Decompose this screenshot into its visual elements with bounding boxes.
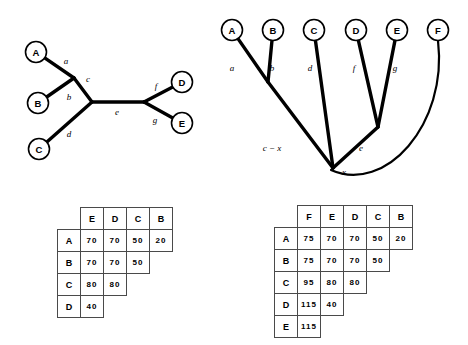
matrix-row-header-D: D <box>275 294 298 316</box>
matrix-col-header-B: B <box>150 208 173 230</box>
edge-label-x: x <box>341 167 346 177</box>
edge-label-b: b <box>270 63 275 73</box>
edge-label-d: d <box>67 129 72 139</box>
matrix-cell-B-E: 70 <box>81 252 104 274</box>
matrix-row: C8080 <box>58 274 173 296</box>
matrix-cell-C-D: 80 <box>104 274 127 296</box>
edge-label-c-x: c − x <box>263 143 282 153</box>
matrix-col-header-B: B <box>390 206 413 228</box>
matrix-row: D11540 <box>275 294 413 316</box>
branch-b <box>268 40 272 82</box>
matrix-empty-cell <box>390 272 413 294</box>
matrix-cell-A-C: 50 <box>127 230 150 252</box>
matrix-cell-D-E: 40 <box>321 294 344 316</box>
edge-label-e: e <box>115 107 119 117</box>
matrix-empty-cell <box>150 252 173 274</box>
matrix-cell-B-E: 70 <box>321 250 344 272</box>
edge-label-g: g <box>153 115 158 125</box>
matrix-cell-D-F: 115 <box>298 294 321 316</box>
matrix-col-header-F: F <box>298 206 321 228</box>
edge-label-f: f <box>155 81 159 91</box>
matrix-row-header-E: E <box>275 316 298 338</box>
branch-f <box>144 87 173 102</box>
matrix-header-row: EDCB <box>58 208 173 230</box>
taxon-label-D: D <box>353 25 360 36</box>
taxon-label-F: F <box>435 25 441 36</box>
rooted-edge-labels: abdfgc − xex <box>230 63 398 177</box>
matrix-row: C958080 <box>275 272 413 294</box>
matrix-col-header-E: E <box>81 208 104 230</box>
matrix-empty-cell <box>104 296 127 318</box>
edge-label-d: d <box>308 63 313 73</box>
unrooted-tree-group: ABCDE abcdefg <box>26 42 193 160</box>
edge-label-g: g <box>393 63 398 73</box>
matrix-cell-A-C: 50 <box>367 228 390 250</box>
matrix-cell-C-F: 95 <box>298 272 321 294</box>
matrix-cell-B-F: 75 <box>298 250 321 272</box>
matrix-row-header-B: B <box>58 252 81 274</box>
matrix-empty-cell <box>367 316 390 338</box>
matrix-empty-cell <box>150 296 173 318</box>
matrix-empty-cell <box>390 316 413 338</box>
matrix-cell-A-B: 20 <box>390 228 413 250</box>
branch-f <box>358 40 378 127</box>
matrix-col-header-D: D <box>344 206 367 228</box>
matrix-row-header-D: D <box>58 296 81 318</box>
rooted-branches <box>238 39 439 175</box>
matrix-row: D40 <box>58 296 173 318</box>
edge-label-b: b <box>67 92 72 102</box>
matrix-header-row: FEDCB <box>275 206 413 228</box>
unrooted-edge-labels: abcdefg <box>64 56 159 139</box>
taxon-label-A: A <box>33 47 40 58</box>
branch-e <box>333 127 378 168</box>
matrix-cell-C-E: 80 <box>81 274 104 296</box>
edge-label-f: f <box>353 63 357 73</box>
unrooted-branches <box>45 58 173 142</box>
matrix-empty-cell <box>367 272 390 294</box>
taxon-label-B: B <box>35 98 42 109</box>
matrix-row: A70705020 <box>58 230 173 252</box>
matrix-empty-cell <box>390 250 413 272</box>
taxon-label-C: C <box>36 144 43 155</box>
matrix-cell-A-F: 75 <box>298 228 321 250</box>
branch-g <box>378 40 395 127</box>
matrix-row: A7570705020 <box>275 228 413 250</box>
matrix-row-header-C: C <box>58 274 81 296</box>
edge-label-c: c <box>86 74 90 84</box>
taxon-label-D: D <box>179 77 186 88</box>
matrix-corner-cell <box>275 206 298 228</box>
matrix-row-header-A: A <box>275 228 298 250</box>
matrix-cell-B-C: 50 <box>367 250 390 272</box>
matrix-cell-C-D: 80 <box>344 272 367 294</box>
taxon-label-E: E <box>394 25 400 36</box>
matrix-row: B75707050 <box>275 250 413 272</box>
matrix-empty-cell <box>150 274 173 296</box>
matrix-corner-cell <box>58 208 81 230</box>
matrix-empty-cell <box>321 316 344 338</box>
distance-matrix-right: FEDCBA7570705020B75707050C958080D11540E1… <box>274 205 413 338</box>
matrix-cell-E-F: 115 <box>298 316 321 338</box>
matrix-empty-cell <box>344 294 367 316</box>
rooted-taxon-nodes: ABCDEF <box>222 20 449 41</box>
distance-matrix-left: EDCBA70705020B707050C8080D40 <box>57 207 173 318</box>
matrix-cell-B-C: 50 <box>127 252 150 274</box>
matrix-cell-A-B: 20 <box>150 230 173 252</box>
edge-label-a: a <box>230 63 235 73</box>
matrix-cell-A-D: 70 <box>344 228 367 250</box>
matrix-cell-B-D: 70 <box>104 252 127 274</box>
matrix-empty-cell <box>127 296 150 318</box>
matrix-empty-cell <box>367 294 390 316</box>
matrix-empty-cell <box>127 274 150 296</box>
matrix-col-header-E: E <box>321 206 344 228</box>
edge-label-e: e <box>359 143 363 153</box>
matrix-cell-A-E: 70 <box>81 230 104 252</box>
taxon-label-E: E <box>179 118 185 129</box>
branch-a <box>45 58 74 78</box>
figure-canvas: ABCDE abcdefg ABCDEF abdfgc − xex EDCBA7… <box>0 0 468 345</box>
edge-label-a: a <box>64 56 69 66</box>
matrix-empty-cell <box>390 294 413 316</box>
taxon-label-B: B <box>270 25 277 36</box>
taxon-label-A: A <box>229 25 236 36</box>
matrix-col-header-C: C <box>367 206 390 228</box>
matrix-cell-A-E: 70 <box>321 228 344 250</box>
